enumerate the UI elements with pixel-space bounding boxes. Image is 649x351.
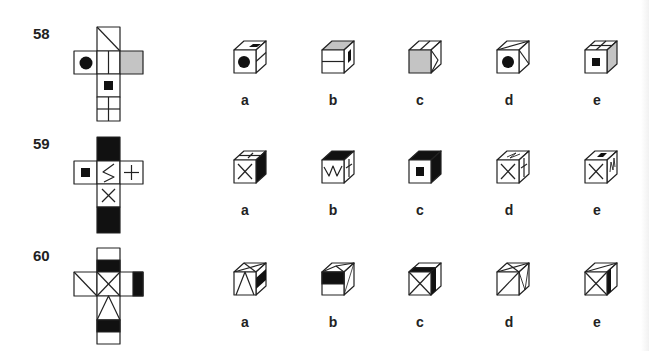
- net-58: [74, 27, 143, 121]
- option-60-c-cube[interactable]: [409, 263, 441, 295]
- option-60-b-cube[interactable]: [322, 263, 354, 295]
- option-59-b-cube[interactable]: [322, 151, 354, 183]
- option-58-a-cube[interactable]: [234, 41, 266, 73]
- page-edge-shadow: [641, 0, 649, 351]
- option-59-a-cube[interactable]: [234, 151, 266, 183]
- option-60-a-cube[interactable]: [234, 263, 266, 295]
- option-58-e-cube[interactable]: [585, 41, 617, 73]
- option-60-e-cube[interactable]: [585, 263, 617, 295]
- option-58-b-cube[interactable]: [322, 41, 354, 73]
- net-59: [74, 137, 143, 233]
- option-58-d-cube[interactable]: [497, 41, 529, 73]
- option-60-d-cube[interactable]: [497, 263, 529, 295]
- puzzle-canvas: [0, 0, 649, 351]
- option-59-c-cube[interactable]: [409, 151, 441, 183]
- option-58-c-cube[interactable]: [409, 41, 441, 73]
- net-60: [74, 248, 143, 344]
- option-59-d-cube[interactable]: [497, 151, 529, 183]
- option-59-e-cube[interactable]: [585, 151, 617, 183]
